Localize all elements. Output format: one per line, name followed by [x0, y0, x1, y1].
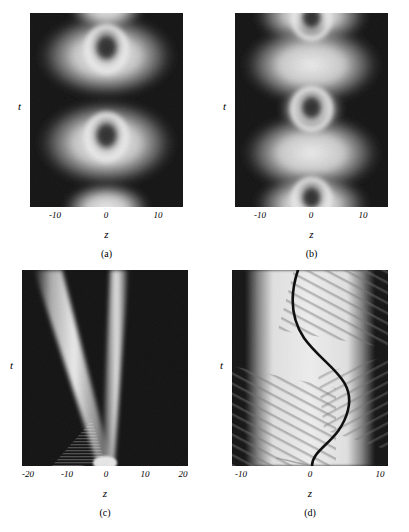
panel-c-density-image [22, 270, 188, 466]
panel-a-ylabel: t [18, 101, 21, 112]
panel-b-xtick-1: 0 [309, 211, 314, 220]
figure-caption [8, 524, 401, 532]
panel-a-plot [30, 13, 183, 207]
panel-d-xtick-2: 10 [376, 470, 385, 479]
panel-b-plot [235, 13, 388, 207]
panel-d: t -10 0 10 z (d) [232, 270, 388, 520]
panel-b-xlabel: z [235, 229, 388, 240]
panel-c-xlabel: z [22, 488, 188, 499]
panel-a-xtick-0: -10 [49, 211, 61, 220]
panel-c-plot [22, 270, 188, 466]
panel-b-label: (b) [235, 249, 388, 259]
panel-c: t -20 -10 0 10 20 z (c) [22, 270, 188, 520]
panel-a-xlabel: z [30, 229, 183, 240]
panel-c-label: (c) [22, 508, 188, 518]
panel-c-xtick-2: 0 [104, 470, 109, 479]
panel-b-ylabel: t [223, 101, 226, 112]
panel-a-xtick-2: 10 [154, 211, 163, 220]
panel-a-label: (a) [30, 249, 183, 259]
figure: t -10 0 10 z (a) [0, 0, 409, 532]
panel-d-density-image [232, 270, 388, 466]
panel-c-ylabel: t [10, 360, 13, 371]
panel-b-xtick-2: 10 [359, 211, 368, 220]
panel-c-xtick-0: -20 [22, 470, 34, 479]
panel-d-ylabel: t [220, 360, 223, 371]
panel-b: t -10 0 10 z (b) [235, 13, 388, 263]
panel-d-label: (d) [232, 508, 388, 518]
panel-d-plot [232, 270, 388, 466]
panel-b-density-image [235, 13, 388, 207]
panel-c-xtick-4: 20 [179, 470, 188, 479]
panel-d-xtick-0: -10 [235, 470, 247, 479]
panel-d-xtick-1: 0 [308, 470, 313, 479]
panel-c-xtick-1: -10 [61, 470, 73, 479]
panel-c-xtick-3: 10 [141, 470, 150, 479]
panel-b-xtick-0: -10 [254, 211, 266, 220]
panel-d-xlabel: z [232, 488, 388, 499]
panel-a: t -10 0 10 z (a) [30, 13, 183, 263]
panel-a-xtick-1: 0 [104, 211, 109, 220]
panel-a-density-image [30, 13, 183, 207]
